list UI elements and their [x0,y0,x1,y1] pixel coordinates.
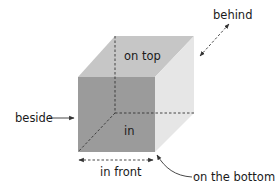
label-in-front: in front [100,165,142,179]
label-behind: behind [213,8,252,22]
label-on-the-bottom: on the bottom [193,170,275,184]
label-on-top: on top [124,49,161,63]
cube-front-face [78,77,155,152]
prepositions-cube-diagram: on top behind beside in in front on the … [0,0,278,192]
label-in: in [124,124,134,138]
behind-arrow [200,24,229,56]
label-beside: beside [15,111,53,125]
on-the-bottom-arrow [157,155,192,177]
